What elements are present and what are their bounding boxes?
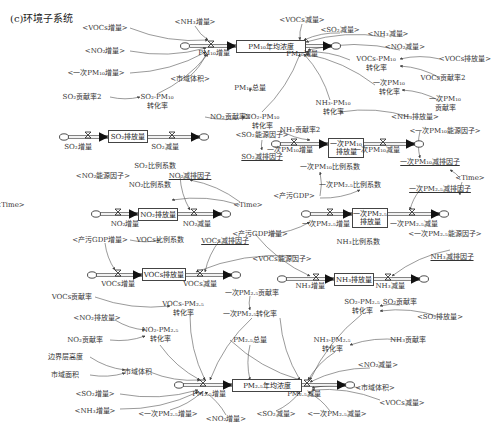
- valve-icon: [313, 274, 319, 280]
- causal-link-arrow: [195, 26, 208, 40]
- valve-icon: [197, 270, 203, 276]
- valve-icon: [327, 209, 333, 215]
- causal-link-arrow: [280, 318, 300, 380]
- variable-label: <一次PM₂.₅减量>: [307, 410, 366, 418]
- cloud-icon: [420, 276, 429, 282]
- variable-label: <Time>: [0, 201, 25, 209]
- variable-label: 一次PM₁₀减量: [354, 146, 400, 154]
- causal-link-arrow: [300, 24, 302, 40]
- variable-label: 转化率: [252, 122, 273, 130]
- variable-label: 一次PM₁₀比例系数: [300, 163, 360, 171]
- causal-link-arrow: [210, 318, 252, 380]
- causal-link-arrow: [172, 198, 240, 205]
- causal-link-arrow: [90, 357, 125, 370]
- valve-icon: [115, 270, 121, 276]
- valve-icon: [115, 209, 121, 215]
- causal-link-arrow: [304, 54, 330, 100]
- valve-icon: [85, 132, 91, 138]
- variable-label: VOCs贡献率: [52, 293, 93, 301]
- variable-label: <一次PM₂.₅增量>: [138, 410, 197, 418]
- variable-label: <NH₃增量>: [75, 407, 116, 415]
- variable-label: NO₂-PM₁₀: [245, 113, 280, 121]
- variable-label: 转化率: [323, 108, 344, 116]
- variable-label: PM₂.₅减量: [287, 390, 321, 398]
- variable-label: 一次PM₂.₅比例系数: [319, 181, 381, 189]
- causal-link-arrow: [180, 176, 190, 210]
- causal-link-arrow: [157, 54, 208, 94]
- causal-link-arrow: [310, 368, 370, 382]
- variable-label: <NO₂排放量>: [73, 314, 120, 322]
- cloud-icon: [302, 211, 311, 217]
- stock-nh3-emit: NH₃排放量: [334, 273, 374, 286]
- variable-label: <NO₂增量>: [206, 415, 246, 423]
- variable-label: NH₃增量: [295, 282, 324, 290]
- variable-label: SO₂-PM₂.₅: [344, 298, 379, 306]
- cloud-icon: [60, 134, 69, 140]
- variable-label: NH₃-PM₁₀: [316, 99, 351, 107]
- variable-label: 一次PM₁₀减排因子: [400, 158, 460, 166]
- causal-link-arrow: [249, 296, 250, 310]
- variable-label: 一次PM₁₀: [429, 95, 461, 103]
- stock-no2-emit: NO₂排放量: [138, 208, 178, 221]
- causal-link-arrow: [120, 390, 198, 397]
- causal-link-arrow: [120, 392, 198, 409]
- variable-label: <SO₂减量>: [320, 26, 359, 34]
- variable-label: SO₂比例系数: [134, 162, 175, 170]
- valve-icon: [385, 274, 391, 280]
- variable-label: <市域体积>: [355, 384, 395, 392]
- variable-label: <VOCs减量>: [279, 16, 324, 24]
- variable-label: <NH₃增量>: [175, 18, 216, 26]
- cloud-icon: [175, 382, 184, 388]
- variable-label: 一次PM₂.₅增量: [302, 220, 350, 228]
- causal-link-arrow: [400, 57, 440, 59]
- variable-label: SO₂贡献率: [383, 298, 417, 306]
- variable-label: 市域体积: [124, 368, 152, 376]
- variable-label: 转化率: [379, 88, 400, 96]
- variable-label: <VOCs能源因子>: [252, 255, 311, 263]
- variable-label: 转化率: [147, 102, 168, 110]
- valve-icon: [409, 209, 415, 215]
- variable-label: SO₂贡献率2: [63, 93, 102, 101]
- variable-label: 一次PM₂.₅减量: [390, 220, 438, 228]
- variable-label: VOCs减排因子: [201, 237, 249, 245]
- cloud-icon: [222, 211, 231, 217]
- stock-pm25-primary: 一次PM₂.₅ 排放量: [352, 208, 388, 228]
- variable-label: 边界层高度: [48, 353, 83, 361]
- variable-label: NH₃比例系数: [336, 238, 379, 246]
- cloud-icon: [440, 211, 449, 217]
- variable-label: <市域体积>: [170, 75, 210, 83]
- variable-label: <一次PM₁₀增量>: [67, 69, 124, 77]
- diagram-canvas: [0, 0, 495, 429]
- causal-link-arrow: [190, 180, 240, 202]
- cloud-icon: [200, 134, 209, 140]
- variable-label: VOCs-PM₁₀: [356, 55, 395, 63]
- variable-label: NH₃减量: [375, 282, 404, 290]
- valve-icon: [208, 41, 214, 47]
- variable-label: <Time>: [233, 201, 262, 209]
- valve-icon: [191, 209, 197, 215]
- causal-link-arrow: [90, 373, 125, 376]
- causal-link-arrow: [261, 140, 262, 150]
- causal-link-arrow: [130, 52, 206, 73]
- variable-label: NH₃-PM₂.₅: [313, 336, 350, 344]
- variable-label: 一次PM₂.₅转化率: [223, 310, 278, 318]
- variable-label: 贡献率: [435, 104, 456, 112]
- causal-link-arrow: [130, 28, 208, 41]
- variable-label: <NO₂减量>: [385, 43, 425, 51]
- variable-label: NO₂增量: [111, 220, 140, 228]
- variable-label: <Time>: [455, 174, 484, 182]
- variable-label: 转化率: [352, 307, 373, 315]
- causal-link-arrow: [130, 48, 206, 54]
- valve-icon: [380, 139, 386, 145]
- variable-label: NH₃贡献率: [390, 336, 426, 344]
- variable-label: 一次PM₂.₅贡献率: [225, 289, 280, 297]
- cloud-icon: [232, 272, 241, 278]
- variable-label: VOCs-PM₂.₅: [162, 300, 204, 308]
- causal-link-arrow: [248, 345, 250, 380]
- variable-label: <NO₂增量>: [85, 47, 125, 55]
- variable-label: NO₂贡献率: [67, 336, 103, 344]
- variable-label: 转化率: [173, 309, 194, 317]
- variable-label: NO₂-PM₂.₅: [142, 326, 179, 334]
- causal-link-arrow: [150, 372, 200, 380]
- variable-label: <NO₂能源因子>: [76, 172, 130, 180]
